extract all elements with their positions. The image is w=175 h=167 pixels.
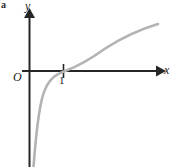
figure-label: a [1, 0, 6, 10]
origin-label: O [13, 71, 22, 83]
x-axis-label: x [164, 64, 169, 76]
x-tick-label-1: 1 [59, 75, 65, 86]
graph-canvas [0, 0, 175, 167]
logarithmic-curve [34, 24, 159, 167]
y-axis-label: y [25, 0, 30, 12]
logarithm-graph-figure: a y x O 1 [0, 0, 175, 167]
